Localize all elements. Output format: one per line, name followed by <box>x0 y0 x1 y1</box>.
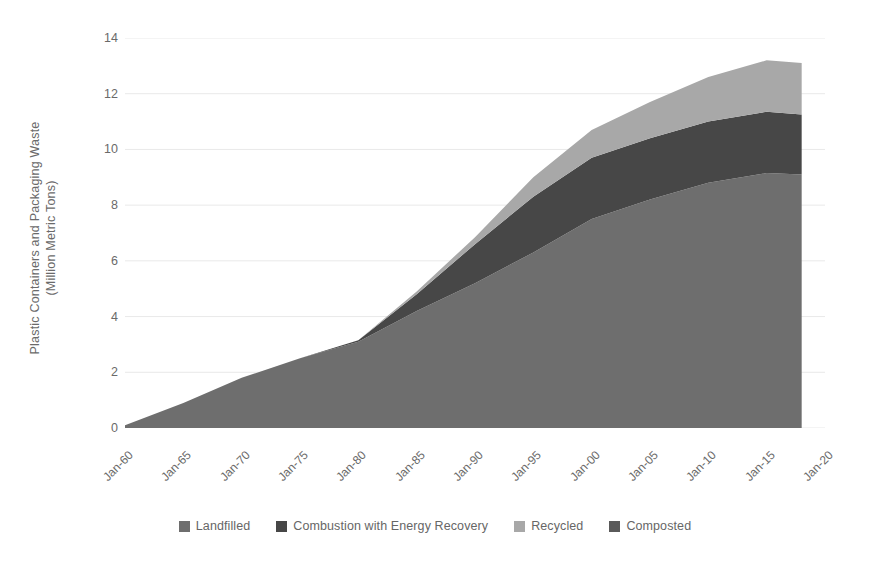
legend-swatch-icon <box>514 521 525 532</box>
x-tick-label: Jan-80 <box>325 448 369 492</box>
legend-swatch-icon <box>179 521 190 532</box>
x-tick-label: Jan-75 <box>267 448 311 492</box>
stacked-area-chart: Plastic Containers and Packaging Waste (… <box>0 0 870 568</box>
x-tick-label: Jan-00 <box>559 448 603 492</box>
legend-label: Combustion with Energy Recovery <box>293 519 488 533</box>
legend-swatch-icon <box>609 521 620 532</box>
legend-item[interactable]: Recycled <box>514 519 583 533</box>
x-tick-label: Jan-60 <box>92 448 136 492</box>
x-tick-label: Jan-05 <box>617 448 661 492</box>
chart-legend: LandfilledCombustion with Energy Recover… <box>0 519 870 533</box>
legend-label: Recycled <box>531 519 583 533</box>
x-tick-label: Jan-70 <box>209 448 253 492</box>
x-tick-label: Jan-65 <box>150 448 194 492</box>
legend-item[interactable]: Combustion with Energy Recovery <box>276 519 488 533</box>
x-tick-label: Jan-15 <box>734 448 778 492</box>
x-tick-label: Jan-90 <box>442 448 486 492</box>
legend-label: Composted <box>626 519 691 533</box>
x-tick-label: Jan-85 <box>384 448 428 492</box>
x-axis-tick-labels: Jan-60Jan-65Jan-70Jan-75Jan-80Jan-85Jan-… <box>0 0 870 568</box>
x-tick-label: Jan-10 <box>675 448 719 492</box>
legend-swatch-icon <box>276 521 287 532</box>
legend-label: Landfilled <box>196 519 251 533</box>
legend-item[interactable]: Composted <box>609 519 691 533</box>
x-tick-label: Jan-95 <box>500 448 544 492</box>
x-tick-label: Jan-20 <box>792 448 836 492</box>
legend-item[interactable]: Landfilled <box>179 519 251 533</box>
